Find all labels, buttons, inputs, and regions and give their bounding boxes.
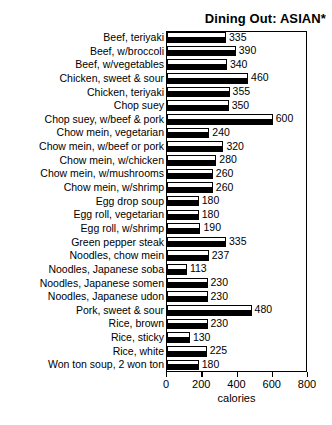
bar [167, 169, 213, 181]
bar-category-label: Chow mein, w/shrimp [4, 181, 164, 193]
bar-category-label: Chow mein, w/beef or pork [4, 140, 164, 152]
bar-row: Beef, w/vegetables340 [0, 58, 332, 72]
bar-shadow [167, 147, 223, 152]
bar-value-label: 335 [229, 235, 247, 247]
bar-row: Chop suey350 [0, 99, 332, 113]
bar-shadow [167, 215, 199, 220]
bar-category-label: Noodles, Japanese udon [4, 290, 164, 302]
bar [167, 264, 187, 276]
bar-row: Pork, sweet & sour480 [0, 304, 332, 318]
bar-category-label: Chop suey [4, 99, 164, 111]
bar-category-label: Beef, teriyaki [4, 31, 164, 43]
bar-value-label: 113 [190, 262, 207, 274]
bar-row: Chow mein, vegetarian240 [0, 126, 332, 140]
bar-row: Noodles, Japanese somen230 [0, 277, 332, 291]
x-axis-tick [237, 372, 238, 377]
bar-row: Chop suey, w/beef & pork600 [0, 113, 332, 127]
bar-row: Noodles, Japanese udon230 [0, 290, 332, 304]
bar-row: Won ton soup, 2 won ton180 [0, 358, 332, 372]
bar-shadow [167, 161, 216, 166]
bar-category-label: Rice, sticky [4, 331, 164, 343]
bar-shadow [167, 106, 229, 111]
bar [167, 250, 209, 262]
bar [167, 182, 213, 194]
bar-value-label: 230 [211, 276, 229, 288]
bar-category-label: Chop suey, w/beef & pork [4, 113, 164, 125]
bar [167, 59, 227, 71]
bar [167, 223, 200, 235]
x-axis-tick-label: 600 [255, 378, 289, 391]
bar-value-label: 240 [212, 126, 230, 138]
bar-shadow [167, 352, 207, 357]
bar-row: Rice, sticky130 [0, 331, 332, 345]
bar-category-label: Chow mein, w/mushrooms [4, 167, 164, 179]
bar-value-label: 320 [226, 140, 244, 152]
bar-row: Noodles, chow mein237 [0, 249, 332, 263]
bar-row: Green pepper steak335 [0, 236, 332, 250]
bar-category-label: Rice, white [4, 345, 164, 357]
bar [167, 278, 208, 290]
bar-category-label: Chicken, sweet & sour [4, 72, 164, 84]
bar [167, 114, 273, 126]
bar-value-label: 180 [202, 358, 220, 370]
bar-value-label: 600 [276, 112, 294, 124]
bar-row: Chicken, sweet & sour460 [0, 72, 332, 86]
bar [167, 360, 199, 372]
x-axis-tick [307, 372, 308, 377]
bar-row: Chicken, teriyaki355 [0, 86, 332, 100]
bar-value-label: 460 [251, 71, 269, 83]
bar-category-label: Chow mein, vegetarian [4, 126, 164, 138]
bar-shadow [167, 338, 190, 343]
bar-category-label: Noodles, Japanese soba [4, 263, 164, 275]
bar-value-label: 390 [239, 44, 257, 56]
bar-row: Egg drop soup180 [0, 195, 332, 209]
bar-value-label: 130 [193, 331, 211, 343]
bar [167, 155, 216, 167]
bar-value-label: 355 [233, 85, 251, 97]
bar-shadow [167, 256, 209, 261]
bar-value-label: 340 [230, 58, 248, 70]
bar-shadow [167, 92, 230, 97]
bar [167, 291, 208, 303]
bar [167, 141, 223, 153]
bar-category-label: Beef, w/broccoli [4, 45, 164, 57]
bar-value-label: 335 [229, 31, 247, 43]
bar-category-label: Noodles, Japanese somen [4, 277, 164, 289]
bar-value-label: 230 [211, 317, 229, 329]
bar-shadow [167, 79, 248, 84]
bar-value-label: 190 [203, 221, 221, 233]
bar-row: Egg roll, vegetarian180 [0, 208, 332, 222]
x-axis-tick-label: 800 [290, 378, 324, 391]
bar-row: Rice, white225 [0, 345, 332, 359]
bar-value-label: 260 [216, 181, 234, 193]
bar-row: Chow mein, w/beef or pork320 [0, 140, 332, 154]
bar-category-label: Chicken, teriyaki [4, 86, 164, 98]
bar-value-label: 180 [202, 194, 220, 206]
bar [167, 73, 248, 85]
x-axis-tick-label: 400 [220, 378, 254, 391]
bar [167, 346, 207, 358]
bar [167, 87, 230, 99]
bar-shadow [167, 297, 208, 302]
bar-row: Chow mein, w/shrimp260 [0, 181, 332, 195]
bar-category-label: Rice, brown [4, 317, 164, 329]
bar [167, 46, 236, 58]
bar-value-label: 237 [212, 249, 230, 261]
bar-category-label: Beef, w/vegetables [4, 58, 164, 70]
bar-row: Beef, teriyaki335 [0, 31, 332, 45]
bar-value-label: 260 [216, 167, 234, 179]
bar-value-label: 480 [255, 303, 273, 315]
x-axis-tick-label: 0 [149, 378, 183, 391]
bar [167, 128, 209, 140]
bar-shadow [167, 120, 273, 125]
bar-shadow [167, 51, 236, 56]
bar-shadow [167, 174, 213, 179]
bar-shadow [167, 65, 227, 70]
bar-value-label: 280 [219, 153, 237, 165]
bar-shadow [167, 283, 208, 288]
bar-category-label: Chow mein, w/chicken [4, 154, 164, 166]
bar-row: Chow mein, w/chicken280 [0, 154, 332, 168]
bar-value-label: 230 [211, 290, 229, 302]
bar-rows-container: Beef, teriyaki335Beef, w/broccoli390Beef… [0, 31, 332, 372]
x-axis-tick [166, 372, 167, 377]
